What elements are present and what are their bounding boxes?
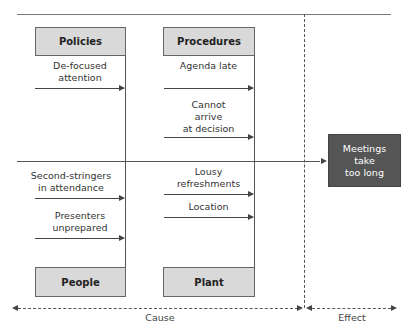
cause-arrow [164, 217, 253, 218]
fishbone-diagram: Policies Procedures People Plant De-focu… [0, 0, 412, 333]
cause-axis-right-arrowhead [297, 305, 303, 311]
cause-arrow [164, 194, 253, 195]
cause-arrow [35, 198, 124, 199]
cause-defocused-attention: De-focused attention [35, 60, 125, 84]
cause-cannot-arrive-at-decision: Cannot arrive at decision [163, 99, 254, 135]
effect-label: Meetings take too long [343, 143, 386, 179]
bone-procedures-plant [254, 55, 255, 268]
cause-agenda-late: Agenda late [163, 60, 254, 72]
top-border-line [17, 14, 391, 15]
cause-effect-divider [304, 14, 305, 308]
cause-axis-label: Cause [130, 312, 190, 323]
cause-presenters-unprepared: Presenters unprepared [35, 210, 125, 234]
effect-axis [312, 308, 391, 309]
cause-arrow [164, 88, 253, 89]
category-people: People [35, 267, 126, 297]
cause-arrow [35, 88, 124, 89]
cause-second-stringers: Second-stringers in attendance [17, 170, 125, 194]
cause-arrow [35, 238, 124, 239]
cause-location: Location [163, 201, 254, 213]
category-policies: Policies [35, 27, 126, 56]
effect-axis-label: Effect [322, 312, 382, 323]
category-plant: Plant [163, 267, 255, 297]
cause-arrow [164, 137, 253, 138]
cause-lousy-refreshments: Lousy refreshments [163, 166, 254, 190]
bone-policies-people [125, 55, 126, 268]
main-spine [17, 161, 320, 162]
main-spine-arrowhead [321, 158, 327, 164]
effect-axis-right-arrowhead [391, 305, 397, 311]
category-procedures: Procedures [163, 27, 255, 56]
cause-axis [18, 308, 298, 309]
effect-box: Meetings take too long [328, 134, 401, 187]
